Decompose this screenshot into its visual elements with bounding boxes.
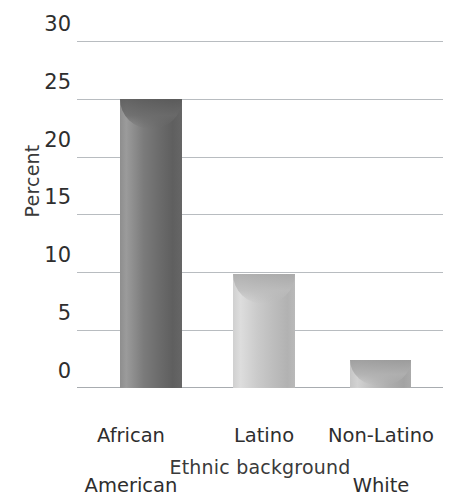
bar-african-american[interactable] — [120, 99, 182, 388]
x-axis-tick-line1: Latino — [209, 423, 319, 448]
y-axis-tick-25: 25 — [0, 70, 71, 94]
y-axis-tick-0: 0 — [0, 359, 71, 383]
y-axis-tick-15: 15 — [0, 185, 71, 209]
bar-chart: Percent 30 25 20 15 10 5 0 Af — [0, 0, 463, 496]
x-axis-tick-line1: Non-Latino — [318, 423, 444, 448]
x-axis-tick-line1: African — [76, 423, 186, 448]
bar-body — [120, 99, 182, 388]
gridline-30 — [77, 41, 443, 42]
y-axis-tick-10: 10 — [0, 243, 71, 267]
x-axis-tick-non-latino-white: Non-Latino White — [318, 398, 444, 496]
y-axis-tick-30: 30 — [0, 12, 71, 36]
x-axis-tick-african-american: African American — [76, 398, 186, 496]
bar-non-latino-white[interactable] — [350, 360, 411, 388]
plot-area — [77, 41, 443, 388]
y-axis-tick-5: 5 — [0, 301, 71, 325]
y-axis-tick-20: 20 — [0, 128, 71, 152]
x-axis-title: Ethnic background — [77, 456, 443, 478]
bar-latino[interactable] — [233, 274, 295, 388]
